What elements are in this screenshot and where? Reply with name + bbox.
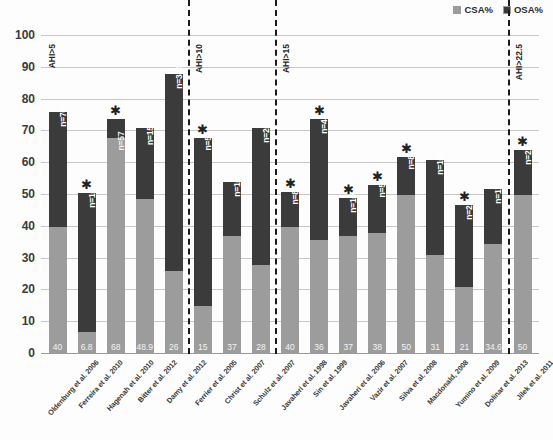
bar-segment-csa[interactable]: 50 (514, 195, 532, 354)
plot-area: 1009080706050403020100 n=70040n=103✱6.8✱… (41, 36, 539, 354)
bar-value-label: 48.9 (136, 342, 153, 352)
y-tick-label-60: 60 (22, 155, 35, 169)
bar-segment-csa[interactable]: 50 (397, 195, 415, 354)
y-tick-label-10: 10 (22, 314, 35, 328)
bar-segment-csa[interactable]: 31 (426, 255, 444, 354)
bar-segment-csa[interactable]: n=5768 (107, 138, 125, 354)
bar-stack[interactable]: n=273✱50 (514, 150, 532, 354)
bar-stack[interactable]: n=38426 (165, 74, 183, 354)
group-divider-label: AHI>5 (47, 44, 57, 68)
bar-value-label: 36 (314, 342, 323, 352)
bar-value-label: 34.6 (485, 342, 502, 352)
bar-segment-osa[interactable]: n=108 (426, 160, 444, 255)
bar-segment-osa[interactable]: n=1500 (136, 128, 154, 198)
bar-segment-osa[interactable]: n=53✱ (194, 138, 212, 307)
bar-stack[interactable]: n=103✱6.8 (78, 193, 96, 354)
group-divider-label: AHI>22.5 (514, 44, 524, 80)
bar-stack[interactable]: ✱n=5768 (107, 119, 125, 354)
bar-value-label: 28 (256, 342, 265, 352)
bar-segment-osa[interactable]: n=100✱ (339, 198, 357, 236)
bar-slot: ✱n=5768 (101, 36, 130, 354)
bar-slot: n=10831 (421, 36, 450, 354)
bar-segment-osa[interactable]: n=203 (252, 128, 270, 265)
x-label-slot: Christ et al. 2007 (217, 356, 246, 440)
bar-segment-csa[interactable]: 6.8 (78, 332, 96, 354)
bar-segment-osa[interactable]: n=102 (223, 182, 241, 236)
bar-segment-osa[interactable]: n=55✱ (368, 185, 386, 233)
bar-stack[interactable]: n=20328 (252, 128, 270, 354)
legend-swatch-csa-icon (453, 6, 461, 14)
bar-slot: n=81✱40 (276, 36, 305, 354)
y-tick-label-40: 40 (22, 219, 35, 233)
bar-segment-osa[interactable]: n=273✱ (514, 150, 532, 195)
bar-stack[interactable]: n=17634.6 (484, 189, 502, 354)
bar-n-label: n=102 (232, 174, 242, 197)
significance-star-icon: ✱ (372, 170, 383, 183)
bar-stack[interactable]: n=100✱37 (339, 198, 357, 354)
bar-n-label: n=700 (58, 104, 68, 127)
bar-segment-csa[interactable]: 37 (223, 236, 241, 354)
x-label-slot: Oldenburg et al. 2006 (43, 356, 72, 440)
y-tick-label-90: 90 (22, 60, 35, 74)
bar-slot: n=150048.9 (130, 36, 159, 354)
bar-segment-csa[interactable]: 21 (455, 287, 473, 354)
x-label-slot: Ferrier et al. 2005 (188, 356, 217, 440)
bar-segment-csa[interactable]: 48.9 (136, 199, 154, 355)
x-label-slot: Sin et al. 1999 (305, 356, 334, 440)
bar-stack[interactable]: n=55✱38 (368, 185, 386, 354)
bar-segment-csa[interactable]: 34.6 (484, 244, 502, 354)
x-label-slot: Silva et al. 2008 (392, 356, 421, 440)
bar-segment-csa[interactable]: 26 (165, 271, 183, 354)
bar-slot: n=70040 (43, 36, 72, 354)
bar-segment-osa[interactable]: n=450✱ (310, 119, 328, 240)
bar-slot: n=89✱50 (392, 36, 421, 354)
legend-label-osa: OSA% (514, 4, 543, 15)
bar-stack[interactable]: n=218✱21 (455, 205, 473, 354)
y-tick-label-70: 70 (22, 123, 35, 137)
group-divider-label: AHI>10 (194, 44, 204, 73)
bar-segment-osa[interactable]: n=700 (49, 112, 67, 226)
significance-star-icon: ✱ (81, 178, 92, 191)
bar-segment-csa[interactable]: 36 (310, 240, 328, 354)
bar-segment-osa[interactable]: n=384 (165, 74, 183, 271)
bar-slot: n=53✱15 (188, 36, 217, 354)
bar-value-label: 6.8 (81, 342, 93, 352)
bar-segment-csa[interactable]: 40 (49, 227, 67, 354)
y-tick-label-20: 20 (22, 282, 35, 296)
significance-star-icon: ✱ (110, 104, 121, 117)
bar-segment-csa[interactable]: 40 (281, 227, 299, 354)
bar-segment-osa[interactable]: n=103✱ (78, 193, 96, 332)
bar-value-label: 40 (285, 342, 294, 352)
bar-segment-osa[interactable]: n=176 (484, 189, 502, 244)
bar-stack[interactable]: n=81✱40 (281, 192, 299, 354)
bar-slot: n=10237 (217, 36, 246, 354)
bar-value-label: 26 (169, 342, 178, 352)
bar-value-label: 38 (372, 342, 381, 352)
significance-star-icon: ✱ (343, 183, 354, 196)
x-label-slot: Jilek et al. 2011 (508, 356, 537, 440)
x-label-slot: Schulz et al. 2007 (246, 356, 275, 440)
bar-segment-csa[interactable]: 38 (368, 233, 386, 354)
bar-value-label: 40 (53, 342, 62, 352)
bar-segment-csa[interactable]: 28 (252, 265, 270, 354)
bar-segment-osa[interactable]: n=218✱ (455, 205, 473, 288)
x-axis-tick-label: Jilek et al. 2011 (514, 358, 553, 402)
bar-stack[interactable]: n=53✱15 (194, 138, 212, 354)
y-tick-label-0: 0 (28, 346, 35, 360)
bar-stack[interactable]: n=10237 (223, 182, 241, 354)
bar-segment-csa[interactable]: 37 (339, 236, 357, 354)
x-label-slot: Ferreira et al. 2010 (72, 356, 101, 440)
bar-stack[interactable]: n=70040 (49, 112, 67, 354)
bar-segment-osa[interactable]: n=89✱ (397, 157, 415, 195)
bar-segment-osa[interactable]: n=81✱ (281, 192, 299, 227)
bar-stack[interactable]: n=89✱50 (397, 157, 415, 354)
bar-stack[interactable]: n=450✱36 (310, 119, 328, 354)
bar-n-label: n=108 (435, 151, 445, 174)
bar-segment-csa[interactable]: 15 (194, 306, 212, 354)
bar-stack[interactable]: n=10831 (426, 160, 444, 354)
significance-star-icon: ✱ (285, 177, 296, 190)
bar-n-label: n=176 (493, 180, 503, 203)
significance-star-icon: ✱ (517, 135, 528, 148)
bar-value-label: 31 (431, 342, 440, 352)
bar-stack[interactable]: n=150048.9 (136, 128, 154, 354)
